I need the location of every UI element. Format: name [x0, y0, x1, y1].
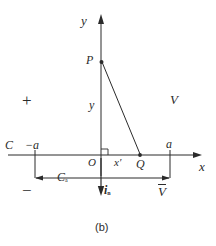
dimension-symbol: C: [57, 170, 65, 184]
figure-caption: (b): [95, 222, 108, 233]
point-p-dot: [100, 60, 104, 64]
segment-x-prime-label: x′: [114, 157, 121, 168]
potential-label: V: [170, 93, 178, 106]
dimension-subscript: a: [65, 177, 68, 183]
contour-label: C: [5, 139, 13, 151]
left-bound-label: −a: [25, 139, 39, 151]
potential-bar-text: V: [158, 185, 166, 198]
right-bound-label: a: [166, 138, 172, 150]
origin-label: O: [88, 157, 96, 168]
segment-y-label: y: [89, 99, 94, 111]
minus-sign-label: −: [22, 182, 32, 199]
normal-vector-subscript: n: [107, 190, 110, 196]
y-axis: [98, 14, 104, 176]
plus-sign-label: +: [22, 92, 32, 109]
y-axis-label: y: [81, 14, 87, 27]
potential-bar-label: V: [158, 185, 166, 198]
figure-diagram: [0, 0, 216, 246]
segment-pq: [102, 62, 140, 154]
x-axis-label: x: [199, 160, 205, 173]
dimension-label: Ca: [57, 171, 68, 183]
normal-vector-label: in: [104, 184, 111, 196]
point-q-label: Q: [136, 158, 145, 170]
dimension-line: [35, 176, 170, 181]
right-angle-marker: [101, 149, 108, 155]
x-axis: [8, 152, 202, 158]
point-p-label: P: [86, 54, 93, 66]
